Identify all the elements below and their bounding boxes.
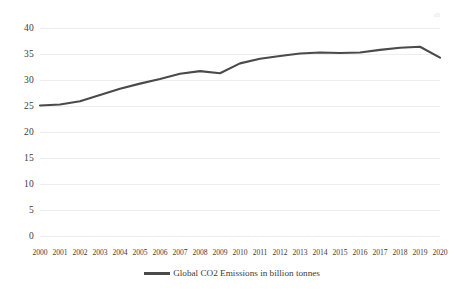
series-layer (40, 28, 440, 236)
y-tick-label: 0 (0, 231, 34, 241)
legend-item: Global CO2 Emissions in billion tonnes (144, 268, 320, 279)
y-tick-label: 40 (0, 23, 34, 33)
y-tick-label: 25 (0, 101, 34, 111)
x-tick-label: 2020 (427, 248, 453, 258)
y-tick-label: 20 (0, 127, 34, 137)
gridline (40, 236, 440, 237)
y-tick-label: 35 (0, 49, 34, 59)
y-tick-label: 15 (0, 153, 34, 163)
y-tick-label: 10 (0, 179, 34, 189)
legend-item-label: Global CO2 Emissions in billion tonnes (173, 268, 320, 279)
y-tick-label: 30 (0, 75, 34, 85)
line-chart: 0510152025303540 20002001200220032004200… (0, 0, 464, 290)
scan-artifact-mark: ıll (434, 11, 440, 19)
legend-line-swatch (144, 272, 170, 274)
series-line-global-co2-emissions (40, 47, 440, 106)
y-axis: 0510152025303540 (0, 0, 34, 290)
x-axis: 2000200120022003200420052006200720082009… (40, 248, 440, 262)
y-tick-label: 5 (0, 205, 34, 215)
chart-legend: Global CO2 Emissions in billion tonnes (0, 268, 464, 279)
plot-area (40, 28, 440, 236)
